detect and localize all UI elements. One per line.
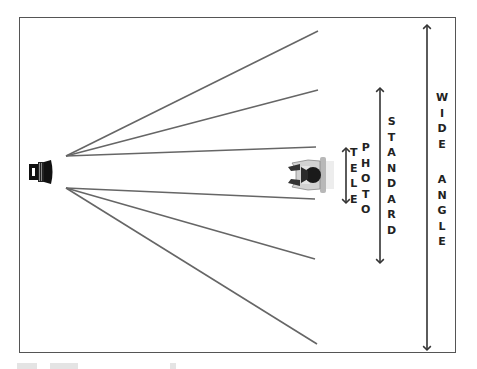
sight-line-wide-top (66, 31, 318, 156)
caption-cutoff (170, 363, 176, 369)
wide-angle-label: WIDE ANGLE (436, 90, 448, 250)
telephoto-label: TELE (350, 145, 358, 207)
sight-line-wide-bottom (66, 188, 317, 344)
sight-line-tele-top (66, 147, 316, 156)
telephoto-label: PHOTO (361, 140, 370, 218)
camera-lens-icon (29, 160, 53, 184)
sight-line-standard-top (66, 90, 318, 156)
sight-lines (66, 31, 318, 344)
sight-line-tele-bottom (66, 188, 315, 199)
seated-person-topdown-icon (288, 157, 334, 193)
sight-line-standard-bottom (66, 188, 315, 259)
standard-label: STANDARD (387, 114, 396, 238)
caption-cutoff (50, 363, 78, 369)
caption-cutoff (17, 363, 37, 369)
